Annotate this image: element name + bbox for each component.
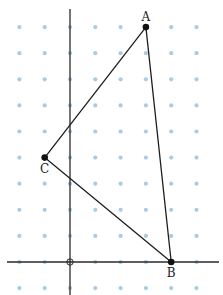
grid-dot [169, 103, 173, 107]
grid-dot [17, 103, 21, 107]
grid-dot [93, 208, 97, 212]
grid-dot [194, 103, 198, 107]
grid-dot [119, 129, 123, 133]
triangle-edges [45, 27, 172, 262]
grid-dot [144, 286, 148, 290]
grid-dot [17, 182, 21, 186]
grid-dot [43, 234, 47, 238]
grid-dot [194, 208, 198, 212]
grid-dot [17, 51, 21, 55]
grid-dot [119, 286, 123, 290]
grid-dot [169, 25, 173, 29]
coordinate-axes [7, 9, 219, 295]
vertex-a-label: A [141, 10, 151, 24]
grid-dot [119, 182, 123, 186]
grid-dot [169, 129, 173, 133]
grid-dot [43, 51, 47, 55]
grid-dot [169, 286, 173, 290]
diagram-canvas: ABC [0, 0, 223, 295]
grid-dot [119, 77, 123, 81]
grid-dot [17, 156, 21, 160]
grid-dot [93, 182, 97, 186]
grid-dot [119, 25, 123, 29]
grid-dot [93, 129, 97, 133]
grid-dot [17, 77, 21, 81]
grid-dot [194, 51, 198, 55]
grid-dot [93, 51, 97, 55]
grid-dot [144, 129, 148, 133]
vertex-c-label: C [40, 162, 49, 176]
grid-dot [169, 51, 173, 55]
grid-dot [43, 77, 47, 81]
grid-dot [144, 208, 148, 212]
grid-dot [43, 182, 47, 186]
grid-dot [17, 25, 21, 29]
grid-dot [169, 77, 173, 81]
grid-dot [169, 156, 173, 160]
grid-dot [144, 156, 148, 160]
grid-dot [43, 129, 47, 133]
grid-dot [119, 234, 123, 238]
grid-dot [194, 77, 198, 81]
vertex-c-point [41, 154, 48, 161]
grid-dot [119, 156, 123, 160]
grid-dot [144, 103, 148, 107]
triangle-abc [45, 27, 172, 262]
grid-dot [194, 25, 198, 29]
grid-dot [43, 25, 47, 29]
grid-dot [93, 103, 97, 107]
grid-dot [17, 129, 21, 133]
grid-dot [194, 129, 198, 133]
grid-dot [169, 208, 173, 212]
grid-dot [144, 51, 148, 55]
grid-dot [194, 182, 198, 186]
grid-dot [93, 234, 97, 238]
grid-dot [43, 103, 47, 107]
grid-dot [43, 286, 47, 290]
triangle-vertices: ABC [40, 10, 176, 280]
vertex-a-point [143, 24, 150, 31]
grid-dot [144, 234, 148, 238]
grid-dot [119, 103, 123, 107]
grid-dot [93, 77, 97, 81]
grid-dot [144, 182, 148, 186]
vertex-b-label: B [167, 266, 176, 280]
grid-dot [119, 208, 123, 212]
grid-dot [144, 77, 148, 81]
grid-dot [43, 208, 47, 212]
vertex-b-point [168, 259, 175, 266]
grid-dot [17, 208, 21, 212]
grid-dot [17, 234, 21, 238]
grid-dot [93, 25, 97, 29]
grid-dot [93, 156, 97, 160]
grid-dot [17, 286, 21, 290]
grid-dot [169, 234, 173, 238]
grid-dot [194, 234, 198, 238]
grid-dot [169, 182, 173, 186]
grid-dot [194, 286, 198, 290]
grid-dot [93, 286, 97, 290]
grid-dot [119, 51, 123, 55]
grid-dot [194, 156, 198, 160]
